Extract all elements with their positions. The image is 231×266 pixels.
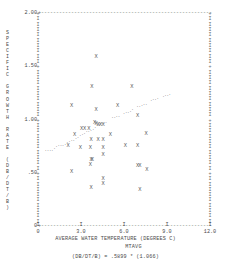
fit-curve-point: . xyxy=(117,115,120,120)
fit-curve-point: . xyxy=(156,97,159,102)
data-point-marker: X xyxy=(109,133,112,138)
x-tick-label: 9.0 xyxy=(162,229,171,235)
data-point-marker: X xyxy=(79,147,82,152)
x-tick-label: 12.0 xyxy=(204,229,216,235)
fit-equation-caption: (DB/DT/B) = .5899 * (1.066) xyxy=(0,254,231,260)
data-point-marker: X xyxy=(136,115,139,120)
data-point-marker: X xyxy=(136,144,139,149)
data-point-marker: X xyxy=(70,104,73,109)
x-axis-variable-name: MTAVG xyxy=(0,244,231,250)
data-point-marker: X xyxy=(94,55,97,60)
data-point-marker: X xyxy=(89,187,92,192)
data-point-marker: X xyxy=(89,138,92,143)
scatter-plot-figure: +---------------------------------------… xyxy=(0,0,231,266)
x-axis-title: AVERAGE WATER TEMPERATURE (DEGREES C) xyxy=(0,236,231,242)
data-point-marker: X xyxy=(102,154,105,159)
x-tick-label: 3.0 xyxy=(76,229,85,235)
x-tick-label: 0 xyxy=(36,229,39,235)
data-point-marker: X xyxy=(89,163,92,168)
fit-curve-point: . xyxy=(105,121,108,126)
data-marks-layer: XXXXXXXXXXXXXXXXXXXXXXXXXXXXXXXXXXXXXXX.… xyxy=(38,13,210,226)
data-point-marker: X xyxy=(138,188,141,193)
data-point-marker: X xyxy=(102,182,105,187)
data-point-marker: X xyxy=(116,104,119,109)
data-point-marker: X xyxy=(94,108,97,113)
data-point-marker: X xyxy=(102,147,105,152)
data-point-marker: X xyxy=(145,132,148,137)
data-point-marker: X xyxy=(124,144,127,149)
plot-area: +---------------------------------------… xyxy=(0,0,231,266)
fit-curve-point: . xyxy=(131,108,134,113)
data-point-marker: X xyxy=(97,138,100,143)
data-point-marker: X xyxy=(130,85,133,90)
data-point-marker: X xyxy=(138,164,141,169)
x-tick-label: 6.0 xyxy=(119,229,128,235)
data-point-marker: X xyxy=(89,147,92,152)
data-point-marker: X xyxy=(90,85,93,90)
fit-curve-point: . xyxy=(145,102,148,107)
fit-curve-point: . xyxy=(168,92,171,97)
data-point-marker: X xyxy=(145,168,148,173)
data-point-marker: X xyxy=(70,171,73,176)
data-point-marker: X xyxy=(102,138,105,143)
